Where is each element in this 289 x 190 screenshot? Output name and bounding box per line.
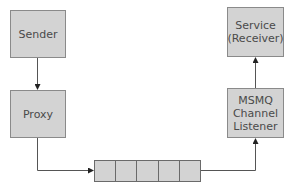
queue-cell [137, 161, 158, 181]
edge-proxy-to-queue [38, 138, 94, 171]
proxy-label: Proxy [23, 108, 53, 121]
msmq-label: MSMQ Channel Listener [233, 94, 278, 133]
msmq-channel-listener-node: MSMQ Channel Listener [227, 88, 284, 138]
sender-node: Sender [10, 10, 66, 58]
queue-cell [95, 161, 116, 181]
queue-cell [180, 161, 200, 181]
queue-cell [159, 161, 180, 181]
queue-cell [116, 161, 137, 181]
message-queue [94, 160, 201, 182]
edge-queue-to-msmq [201, 139, 256, 171]
service-label: Service (Receiver) [227, 19, 283, 45]
proxy-node: Proxy [10, 90, 66, 138]
sender-label: Sender [19, 28, 58, 41]
service-receiver-node: Service (Receiver) [227, 7, 284, 57]
